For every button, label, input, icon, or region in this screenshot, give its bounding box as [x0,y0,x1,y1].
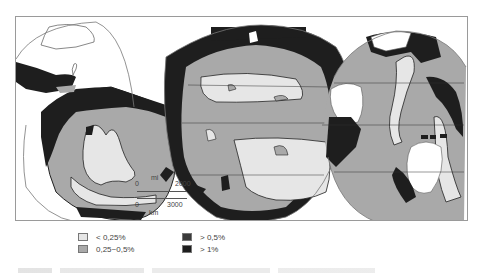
map-frame [15,16,468,221]
scale-line-miles [137,191,187,192]
legend-label: > 0,5% [200,233,225,242]
legend-label: > 1% [200,245,218,254]
legend-label: 0,25~0,5% [96,245,134,254]
legend-swatch-high [182,233,192,241]
scale-miles-start: 0 [135,180,139,187]
figure-caption-cutoff [18,264,438,273]
scale-line-km [137,198,187,199]
scale-bar: mi 0 2000 0 3000 km [135,174,215,218]
scale-km-end: 3000 [167,201,183,208]
scale-km-start: 0 [135,201,139,208]
legend-swatch-very-high [182,245,192,253]
lobe-atlantic-ocean [322,31,466,221]
legend-label: < 0,25% [96,233,126,242]
scale-unit-miles: mi [151,174,158,181]
legend-item-very-high: > 1% [182,244,218,254]
legend: < 0,25% 0,25~0,5% > 0,5% > 1% [78,232,278,256]
world-map [16,17,468,221]
legend-swatch-medium [78,245,88,253]
legend-item-low: < 0,25% [78,232,126,242]
legend-swatch-low [78,233,88,241]
scale-miles-end: 2000 [175,180,191,187]
legend-item-high: > 0,5% [182,232,225,242]
scale-unit-km: km [149,209,158,216]
legend-item-medium: 0,25~0,5% [78,244,134,254]
